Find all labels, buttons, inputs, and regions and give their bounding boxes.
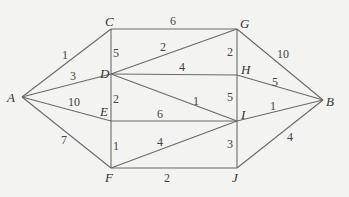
edge-weight-G-B: 10 [277, 47, 289, 61]
node-label-G: G [240, 16, 250, 31]
edge-weight-C-D: 5 [113, 46, 119, 60]
edge-weight-I-J: 3 [227, 137, 233, 151]
edge-weight-H-B: 5 [272, 75, 278, 89]
node-label-J: J [232, 170, 239, 185]
edge-weight-E-F: 1 [113, 139, 119, 153]
edge-weight-I-B: 1 [270, 99, 276, 113]
node-label-I: I [240, 107, 246, 122]
edge-D-H [111, 74, 237, 75]
edge-H-B [237, 75, 323, 100]
edge-A-D [22, 74, 111, 97]
edge-weight-A-E: 10 [68, 95, 80, 109]
edge-weight-F-I: 4 [157, 135, 163, 149]
node-label-C: C [105, 14, 114, 29]
edge-weight-A-F: 7 [61, 133, 67, 147]
edge-weight-D-H: 4 [179, 60, 185, 74]
edge-weight-D-I: 1 [193, 94, 199, 108]
edge-D-G [111, 29, 237, 74]
edge-weight-A-C: 1 [62, 48, 68, 62]
edge-A-C [22, 29, 111, 97]
edge-weight-D-E: 2 [113, 92, 119, 106]
edge-weight-E-I: 6 [157, 107, 163, 121]
edge-weight-C-G: 6 [170, 14, 176, 28]
edge-weight-J-B: 4 [287, 130, 293, 144]
edge-F-I [111, 121, 237, 168]
node-label-E: E [99, 104, 108, 119]
node-label-F: F [104, 170, 114, 185]
edge-D-I [111, 74, 237, 121]
weighted-graph-diagram: 13107652412614225310514ABCDEFGHIJ [0, 0, 349, 197]
node-label-D: D [99, 66, 110, 81]
edge-weight-A-D: 3 [70, 69, 76, 83]
graph-svg: 13107652412614225310514ABCDEFGHIJ [0, 0, 349, 197]
edge-weight-D-G: 2 [160, 40, 166, 54]
node-label-A: A [6, 90, 15, 105]
edge-weight-F-J: 2 [164, 171, 170, 185]
edge-A-E [22, 97, 111, 121]
edge-weight-G-H: 2 [227, 45, 233, 59]
node-label-H: H [240, 62, 251, 77]
edge-weight-H-I: 5 [227, 90, 233, 104]
node-label-B: B [326, 94, 334, 109]
